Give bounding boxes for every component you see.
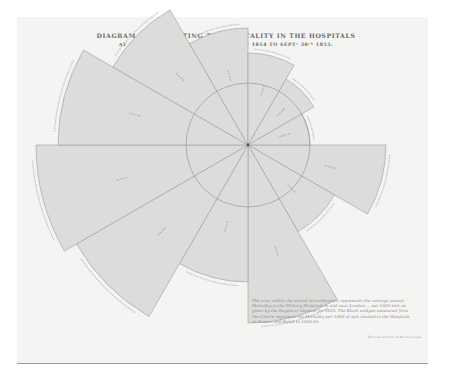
center-point (247, 144, 250, 147)
printer-imprint: Harrison & Sons, St Martin's Lane (368, 335, 421, 339)
chart-legend: The area within the dotted circumference… (252, 298, 412, 324)
